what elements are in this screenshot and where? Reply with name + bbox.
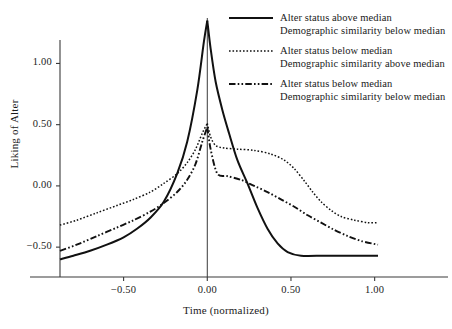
figure-caption-partial bbox=[18, 320, 438, 329]
legend-label: Alter status above medianDemographic sim… bbox=[280, 11, 450, 37]
legend-label-line2: Demographic similarity below median bbox=[280, 24, 450, 37]
chart-figure: Liking of Alter Time (normalized) 1.000.… bbox=[0, 0, 452, 329]
legend-label-line1: Alter status above median bbox=[280, 11, 450, 24]
x-tick-label: −0.50 bbox=[94, 284, 154, 295]
legend-line-swatch bbox=[228, 44, 274, 70]
chart-legend: Alter status above medianDemographic sim… bbox=[228, 11, 450, 110]
y-tick-label: 0.50 bbox=[10, 118, 52, 129]
legend-line-swatch bbox=[228, 77, 274, 103]
series-path-2 bbox=[60, 123, 207, 225]
legend-label-line1: Alter status below median bbox=[280, 77, 450, 90]
legend-line-swatch bbox=[228, 11, 274, 37]
series-path-2 bbox=[207, 123, 378, 222]
legend-label-line2: Demographic similarity above median bbox=[280, 57, 450, 70]
legend-item: Alter status below medianDemographic sim… bbox=[228, 44, 450, 70]
y-axis-title: Liking of Alter bbox=[8, 89, 20, 179]
series-path-1 bbox=[60, 21, 207, 260]
x-tick-label: 0.00 bbox=[177, 284, 237, 295]
legend-label-line1: Alter status below median bbox=[280, 44, 450, 57]
y-tick-label: 0.00 bbox=[10, 179, 52, 190]
y-tick-label: 1.00 bbox=[10, 56, 52, 67]
x-tick-label: 0.50 bbox=[261, 284, 321, 295]
legend-item: Alter status above medianDemographic sim… bbox=[228, 11, 450, 37]
y-tick-label: −0.50 bbox=[10, 240, 52, 251]
legend-item: Alter status below medianDemographic sim… bbox=[228, 77, 450, 103]
legend-label-line2: Demographic similarity below median bbox=[280, 90, 450, 103]
x-axis-title: Time (normalized) bbox=[0, 304, 452, 316]
x-tick-label: 1.00 bbox=[345, 284, 405, 295]
legend-label: Alter status below medianDemographic sim… bbox=[280, 77, 450, 103]
legend-label: Alter status below medianDemographic sim… bbox=[280, 44, 450, 70]
